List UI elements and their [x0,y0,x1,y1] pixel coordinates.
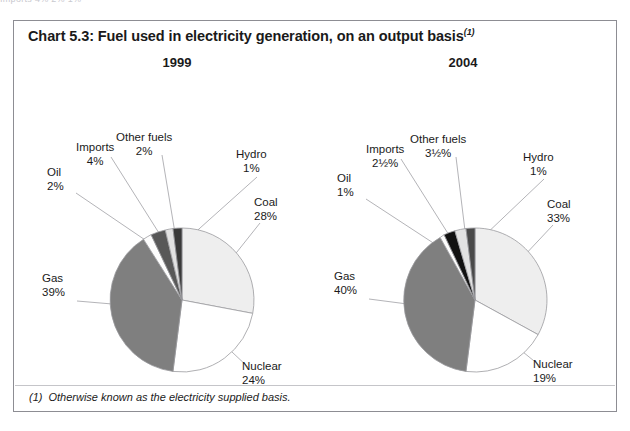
chart-footnote: (1)Otherwise known as the electricity su… [29,391,291,403]
chart-title: Chart 5.3: Fuel used in electricity gene… [28,27,474,44]
pie-label-hydro-1999-name: Hydro [236,148,267,160]
leader-line-other-fuels-2004 [456,157,466,239]
pie-label-other-fuels-2004-value: 3½% [410,146,466,160]
pie-label-nuclear-2004-value: 19% [533,371,573,385]
pie-label-imports-1999-value: 4% [76,154,114,168]
pie-label-hydro-1999: Hydro 1% [236,147,267,175]
pie-label-coal-1999: Coal 28% [254,195,278,223]
pie-label-coal-1999-value: 28% [254,209,278,223]
pie-label-nuclear-1999: Nuclear 24% [242,359,282,387]
pie-label-oil-2004: Oil 1% [337,171,354,199]
pie-panel-2004: 2004 Imports [311,47,613,387]
pie-label-imports-2004-name: Imports [366,143,404,155]
pie-label-imports-1999: Imports 4% [76,140,114,168]
pie-panel-1999: 1999 Imports [14,47,316,387]
pie-label-other-fuels-1999: Other fuels 2% [116,130,172,158]
pie-label-other-fuels-1999-name: Other fuels [116,131,172,143]
scan-artifact-top: Imports 4% 2% 1% [0,0,630,13]
pie-label-gas-1999-value: 39% [42,285,65,299]
pie-label-coal-2004-value: 33% [547,211,571,225]
pie-label-gas-1999-name: Gas [42,272,63,284]
leader-line-hydro-1999 [190,177,257,237]
pie-label-hydro-2004: Hydro 1% [523,150,554,178]
pie-label-nuclear-2004: Nuclear 19% [533,357,573,385]
pie-label-nuclear-1999-name: Nuclear [242,360,282,372]
pie-label-gas-2004: Gas 40% [334,269,357,297]
scan-artifact-text: Imports 4% 2% 1% [0,0,81,4]
pie-label-oil-2004-value: 1% [337,185,354,199]
pie-label-oil-1999-value: 2% [47,179,64,193]
leader-line-oil-1999 [76,193,154,246]
pie-label-hydro-1999-value: 1% [236,161,267,175]
pie-label-hydro-2004-value: 1% [523,164,554,178]
pie-label-hydro-2004-name: Hydro [523,151,554,163]
chart-title-footnote-marker: (1) [464,27,475,37]
pie-label-coal-2004-name: Coal [547,198,571,210]
chart-figure-frame: Chart 5.3: Fuel used in electricity gene… [13,20,617,412]
pie-label-oil-1999: Oil 2% [47,165,64,193]
pie-label-other-fuels-2004-name: Other fuels [410,133,466,145]
pie-label-coal-2004: Coal 33% [547,197,571,225]
leader-line-other-fuels-1999 [162,155,176,239]
pie-label-imports-2004-value: 2½% [366,156,404,170]
leader-line-imports-2004 [401,159,454,243]
pie-label-gas-2004-name: Gas [334,270,355,282]
footnote-divider [15,385,615,386]
chart-title-text: Chart 5.3: Fuel used in electricity gene… [28,28,464,44]
leader-line-hydro-2004 [483,179,544,237]
pie-label-oil-2004-name: Oil [337,172,351,184]
pie-label-gas-1999: Gas 39% [42,271,65,299]
pie-label-imports-2004: Imports 2½% [366,142,404,170]
pie-label-other-fuels-2004: Other fuels 3½% [410,132,466,160]
leader-line-imports-1999 [111,157,164,241]
pie-label-coal-1999-name: Coal [254,196,278,208]
pie-label-imports-1999-name: Imports [76,141,114,153]
footnote-text: Otherwise known as the electricity suppl… [48,391,290,403]
footnote-number: (1) [29,391,42,403]
pie-label-other-fuels-1999-value: 2% [116,144,172,158]
pie-slice-nuclear-1999 [173,300,253,372]
pie-label-gas-2004-value: 40% [334,283,357,297]
pie-slice-coal-1999 [182,228,254,313]
pie-label-oil-1999-name: Oil [47,166,61,178]
pie-label-nuclear-2004-name: Nuclear [533,358,573,370]
